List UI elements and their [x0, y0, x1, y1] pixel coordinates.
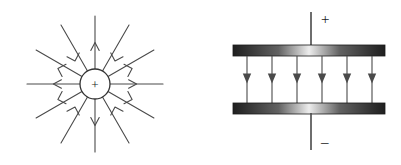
- bottom-plate: [233, 103, 385, 114]
- negative-terminal-label: –: [320, 134, 329, 150]
- top-plate: [233, 45, 385, 56]
- point-charge-sign: +: [91, 77, 98, 92]
- figure-root: + +: [0, 0, 401, 165]
- positive-terminal-label: +: [321, 11, 329, 27]
- electric-field-figure: + +: [0, 0, 401, 165]
- figure-background: [0, 0, 401, 165]
